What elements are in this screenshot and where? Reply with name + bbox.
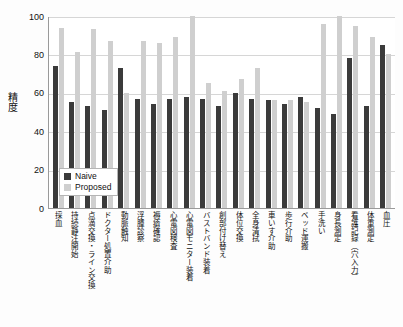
x-axis-tick-label: 血圧 [381,211,390,227]
bar-proposed [255,68,260,208]
bar-proposed [141,41,146,208]
x-axis-tick-label-cell: 創部付け替え [213,211,229,323]
bar-proposed [222,91,227,208]
bar-group [378,17,394,208]
bar-group [263,17,279,208]
x-axis-tick-label: 体重測定 [365,211,374,242]
x-axis-tick-label-cell: 身長測定 [328,211,344,323]
bar-proposed [304,102,309,208]
y-axis-tick-label: 100 [29,13,44,22]
legend-label: Naive [75,172,97,181]
x-axis-tick-label-cell: ドクター処置介助 [98,211,114,323]
x-axis-tick-label: ドクター処置介助 [102,211,111,273]
bar-group [328,17,344,208]
x-axis-tick-label: 看護記録（穴入力） [349,211,358,281]
x-axis-tick-label: ベッド運搬 [299,211,308,250]
x-axis-tick-label: 車いす介助 [266,211,275,250]
bar-group [181,17,197,208]
bar-naive [118,68,123,208]
x-axis-tick-label-cell: 浮腫診察 [131,211,147,323]
x-axis-tick-labels: 採血持続静注開始点滴交換・ライン交換ドクター処置介助動脈触知浮腫診察褥瘡確認心電… [48,211,395,323]
bar-group [312,17,328,208]
bar-proposed [370,37,375,208]
bar-group [247,17,263,208]
x-axis-tick-label: 全身清拭 [250,211,259,242]
x-axis-tick-label-cell: 体重測定 [361,211,377,323]
x-axis-tick-label-cell: 持続静注開始 [65,211,81,323]
x-axis-tick-label-cell: 褥瘡確認 [148,211,164,323]
x-axis-tick-label-cell: 体位交換 [230,211,246,323]
x-axis-tick-label-cell: 心電図検査 [164,211,180,323]
x-axis-tick-label-cell: 全身清拭 [246,211,262,323]
bar-chart: 精度 020406080100 NaiveProposed 採血持続静注開始点滴… [0,0,403,327]
x-axis-tick-label: バストバンド装着 [201,211,210,273]
bar-group [165,17,181,208]
bar-proposed [239,79,244,208]
x-axis-tick-label: 心電図モニター装着 [184,211,193,281]
bar-naive [364,106,369,208]
y-axis-tick-label: 40 [34,128,44,137]
y-axis-title: 精度 [3,92,17,112]
bar-proposed [173,37,178,208]
legend-entry: Proposed [64,183,111,192]
bar-group [279,17,295,208]
x-axis-tick-label: 浮腫診察 [135,211,144,242]
x-axis-tick-label: 点滴交換・ライン交換 [86,211,95,289]
bar-naive [298,97,303,208]
bar-proposed [353,26,358,208]
bar-naive [151,104,156,208]
x-axis-tick-label: 心電図検査 [168,211,177,250]
x-axis-tick-label: 手洗い [316,211,325,234]
x-axis-tick-label-cell: 看護記録（穴入力） [345,211,361,323]
x-axis-tick-label-cell: 心電図モニター装着 [180,211,196,323]
x-axis-tick-label: 創部付け替え [217,211,226,258]
bar-naive [200,99,205,208]
bar-proposed [321,24,326,208]
x-axis-tick-label: 採血 [53,211,62,227]
bar-group [361,17,377,208]
bar-proposed [157,43,162,208]
x-axis-tick-label: 身長測定 [332,211,341,242]
bar-group [214,17,230,208]
bar-naive [315,108,320,208]
y-axis-tick-label: 0 [39,205,44,214]
x-axis-tick-label: 歩行介助 [283,211,292,242]
bar-proposed [386,54,391,208]
bar-naive [167,99,172,208]
bar-group [230,17,246,208]
bar-proposed [124,93,129,208]
y-axis-tick-label: 20 [34,166,44,175]
bar-proposed [190,16,195,208]
bar-group [132,17,148,208]
x-axis-tick-label-cell: バストバンド装着 [197,211,213,323]
bar-group [345,17,361,208]
legend: NaiveProposed [59,168,118,196]
bar-naive [216,106,221,208]
x-axis-tick-label-cell: 歩行介助 [279,211,295,323]
legend-swatch-icon [64,173,71,180]
x-axis-tick-label-cell: 点滴交換・ライン交換 [82,211,98,323]
y-axis-tick-label: 60 [34,89,44,98]
y-axis-tick-labels: 020406080100 [18,0,46,215]
x-axis-tick-label: 体位交換 [234,211,243,242]
bar-naive [380,45,385,208]
bar-naive [53,66,58,208]
bar-proposed [337,16,342,208]
legend-label: Proposed [75,183,111,192]
bar-naive [331,114,336,208]
x-axis-tick-label: 動脈触知 [119,211,128,242]
bar-proposed [288,100,293,208]
y-axis-tick-label: 80 [34,51,44,60]
bar-group [197,17,213,208]
x-axis-tick-label-cell: 血圧 [377,211,393,323]
legend-entry: Naive [64,172,111,181]
x-axis-tick-label-cell: ベッド運搬 [295,211,311,323]
bar-proposed [272,100,277,208]
bar-naive [233,93,238,208]
bar-proposed [206,83,211,208]
x-axis-tick-label-cell: 動脈触知 [115,211,131,323]
bar-naive [282,104,287,208]
x-axis-tick-label-cell: 車いす介助 [262,211,278,323]
x-axis-tick-label-cell: 採血 [49,211,65,323]
bar-naive [135,99,140,208]
